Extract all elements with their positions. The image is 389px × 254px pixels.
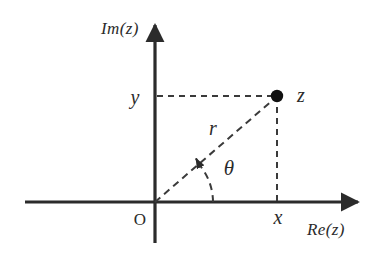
complex-plane-diagram bbox=[0, 0, 389, 254]
argument-arc-arrowhead-path bbox=[196, 159, 200, 166]
modulus-label: r bbox=[209, 118, 217, 138]
modulus-ray-line bbox=[155, 99, 274, 202]
imaginary-part-label: y bbox=[131, 87, 140, 107]
origin-label: O bbox=[134, 211, 146, 228]
point-z-marker bbox=[271, 90, 283, 102]
argument-arc-path bbox=[200, 165, 214, 202]
point-z-label: z bbox=[297, 85, 305, 105]
real-part-label: x bbox=[274, 207, 283, 227]
imaginary-axis-label: Im(z) bbox=[101, 20, 139, 37]
real-axis-label: Re(z) bbox=[307, 221, 345, 238]
complex-plane-figure: Im(z) Re(z) z y x r θ O bbox=[0, 0, 389, 254]
argument-label: θ bbox=[224, 158, 234, 179]
